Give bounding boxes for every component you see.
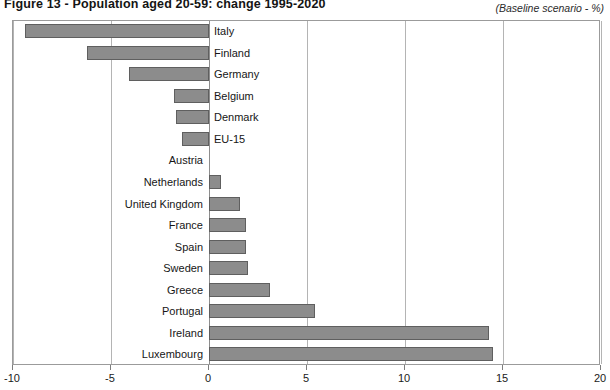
bar-row: Sweden xyxy=(13,258,599,280)
category-label-luxembourg: Luxembourg xyxy=(142,347,203,361)
bar-rows: ItalyFinlandGermanyBelgiumDenmarkEU-15Au… xyxy=(13,21,599,364)
tick-mark-0 xyxy=(208,365,209,370)
tick-mark--5 xyxy=(110,365,111,370)
bar-germany xyxy=(129,67,209,81)
bar-italy xyxy=(25,24,209,38)
bar-ireland xyxy=(209,326,489,340)
bar-denmark xyxy=(176,110,209,124)
chart-plot-area: ItalyFinlandGermanyBelgiumDenmarkEU-15Au… xyxy=(12,20,600,365)
category-label-sweden: Sweden xyxy=(163,261,203,275)
bar-row: United Kingdom xyxy=(13,194,599,216)
chart-subtitle: (Baseline scenario - %) xyxy=(495,2,604,14)
category-label-belgium: Belgium xyxy=(214,89,254,103)
bar-row: Finland xyxy=(13,43,599,65)
bar-france xyxy=(209,218,246,232)
bar-row: Spain xyxy=(13,237,599,259)
bar-sweden xyxy=(209,261,248,275)
tick-label-20: 20 xyxy=(594,372,606,384)
x-axis: -10-505101520 xyxy=(12,365,600,389)
bar-row: Denmark xyxy=(13,107,599,129)
bar-row: Netherlands xyxy=(13,172,599,194)
category-label-eu-15: EU-15 xyxy=(214,132,245,146)
category-label-austria: Austria xyxy=(169,153,203,167)
tick-label--10: -10 xyxy=(4,372,20,384)
page-title: Figure 13 - Population aged 20-59: chang… xyxy=(4,0,326,11)
gridline-20 xyxy=(601,21,602,364)
tick-label-10: 10 xyxy=(398,372,410,384)
category-label-portugal: Portugal xyxy=(162,304,203,318)
category-label-greece: Greece xyxy=(167,283,203,297)
bar-row: France xyxy=(13,215,599,237)
tick-mark-5 xyxy=(306,365,307,370)
category-label-denmark: Denmark xyxy=(214,110,259,124)
bar-row: Austria xyxy=(13,150,599,172)
tick-mark--10 xyxy=(12,365,13,370)
bar-netherlands xyxy=(209,175,221,189)
tick-label-15: 15 xyxy=(496,372,508,384)
bar-portugal xyxy=(209,304,315,318)
category-label-ireland: Ireland xyxy=(169,326,203,340)
bar-row: Belgium xyxy=(13,86,599,108)
category-label-netherlands: Netherlands xyxy=(144,175,203,189)
bar-luxembourg xyxy=(209,347,493,361)
bar-finland xyxy=(87,46,209,60)
bar-belgium xyxy=(174,89,209,103)
tick-label--5: -5 xyxy=(105,372,115,384)
category-label-finland: Finland xyxy=(214,46,250,60)
bar-row: Greece xyxy=(13,280,599,302)
tick-mark-15 xyxy=(502,365,503,370)
category-label-germany: Germany xyxy=(214,67,259,81)
bar-row: Portugal xyxy=(13,301,599,323)
category-label-france: France xyxy=(169,218,203,232)
tick-mark-10 xyxy=(404,365,405,370)
category-label-united-kingdom: United Kingdom xyxy=(125,197,203,211)
bar-row: EU-15 xyxy=(13,129,599,151)
tick-label-0: 0 xyxy=(205,372,211,384)
bar-spain xyxy=(209,240,246,254)
bar-row: Ireland xyxy=(13,323,599,345)
bar-eu-15 xyxy=(182,132,209,146)
tick-label-5: 5 xyxy=(303,372,309,384)
bar-row: Germany xyxy=(13,64,599,86)
tick-mark-20 xyxy=(600,365,601,370)
category-label-italy: Italy xyxy=(214,24,234,38)
bar-united-kingdom xyxy=(209,197,240,211)
bar-greece xyxy=(209,283,270,297)
category-label-spain: Spain xyxy=(175,240,203,254)
bar-row: Italy xyxy=(13,21,599,43)
bar-row: Luxembourg xyxy=(13,344,599,366)
